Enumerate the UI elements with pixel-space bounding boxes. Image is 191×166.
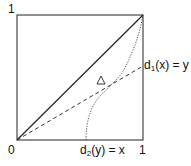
origin-label: 0 (8, 144, 15, 156)
d1-label-rest: (x) = y (155, 58, 189, 72)
delta-triangle-icon (97, 76, 105, 84)
diagram-canvas (0, 0, 191, 166)
d2-label: d2(y) = x (80, 144, 125, 158)
y-max-label: 1 (8, 3, 15, 15)
d1-label-main: d (144, 58, 151, 72)
d2-label-rest: (y) = x (91, 143, 125, 157)
d2-label-main: d (80, 143, 87, 157)
d1-label: d1(x) = y (144, 59, 189, 73)
x-max-label: 1 (139, 144, 146, 156)
d2-dotted-curve (86, 15, 143, 140)
diagonal-line (17, 15, 143, 140)
